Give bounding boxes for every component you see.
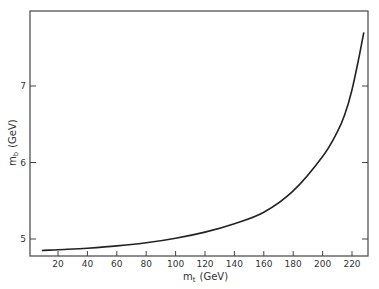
x-axis-ticks: 20406080100120140160180200220 [52, 251, 361, 269]
y-tick-label: 7 [20, 81, 26, 91]
chart: 20406080100120140160180200220 567 mt(GeV… [0, 0, 379, 289]
x-tick-label: 140 [226, 259, 243, 269]
data-curve [42, 32, 364, 250]
x-tick-label: 80 [140, 259, 152, 269]
x-tick-label: 40 [82, 259, 94, 269]
x-tick-label: 160 [255, 259, 272, 269]
y-axis-ticks: 567 [20, 81, 368, 244]
x-tick-label: 60 [111, 259, 123, 269]
y-axis-label: mb(GeV) [7, 119, 20, 166]
x-tick-label: 100 [167, 259, 184, 269]
x-tick-label: 220 [343, 259, 360, 269]
x-tick-label: 120 [196, 259, 213, 269]
y-tick-label: 6 [20, 158, 26, 168]
x-tick-label: 180 [285, 259, 302, 269]
x-axis-label: mt(GeV) [183, 271, 228, 284]
x-tick-label: 20 [52, 259, 64, 269]
x-tick-label: 200 [314, 259, 331, 269]
plot-frame [30, 11, 368, 256]
y-tick-label: 5 [20, 234, 26, 244]
